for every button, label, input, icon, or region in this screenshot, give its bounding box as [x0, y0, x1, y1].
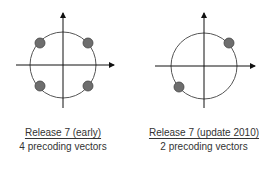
constellation-update-2010	[155, 13, 255, 108]
precoding-vector-dot	[174, 82, 184, 92]
precoding-vector-dot	[224, 38, 234, 48]
precoding-vector-dot	[35, 38, 45, 48]
caption-update-2010: Release 7 (update 2010) 2 precoding vect…	[144, 127, 264, 152]
caption-early: Release 7 (early) 4 precoding vectors	[13, 127, 113, 152]
constellation-early	[16, 13, 114, 108]
precoding-vector-dot	[83, 38, 93, 48]
caption-title: Release 7 (update 2010)	[144, 127, 264, 138]
precoding-vector-dot	[83, 81, 93, 91]
caption-subtitle: 2 precoding vectors	[144, 141, 264, 152]
caption-title: Release 7 (early)	[13, 127, 113, 138]
precoding-vector-dot	[35, 81, 45, 91]
caption-subtitle: 4 precoding vectors	[13, 141, 113, 152]
